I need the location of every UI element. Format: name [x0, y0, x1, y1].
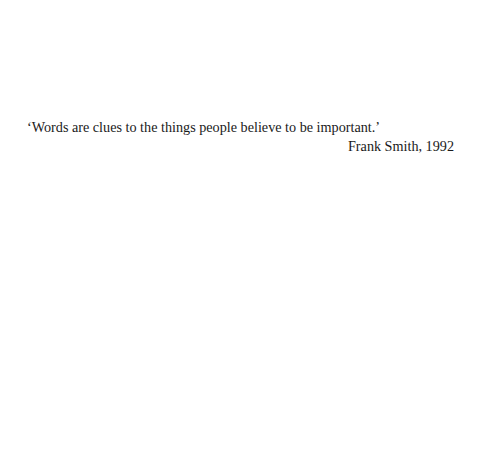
- epigraph-quote: ‘Words are clues to the things people be…: [27, 118, 454, 137]
- epigraph: ‘Words are clues to the things people be…: [27, 118, 454, 156]
- epigraph-attribution: Frank Smith, 1992: [27, 137, 454, 156]
